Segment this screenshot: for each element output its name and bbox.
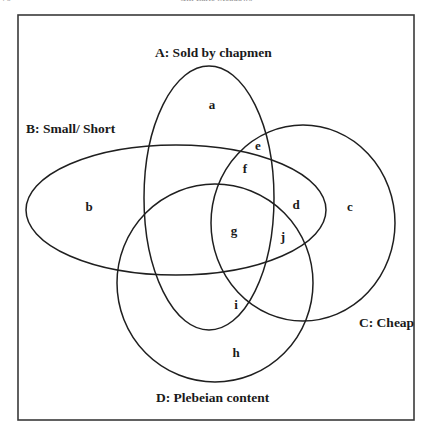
region-j-label: j <box>280 229 285 244</box>
region-c-label: c <box>347 199 353 214</box>
set-a-label: A: Sold by chapmen <box>155 45 272 60</box>
venn-diagram: A: Sold by chapmen B: Small/ Short C: Ch… <box>0 0 432 439</box>
set-b-label: B: Small/ Short <box>26 121 116 136</box>
region-f-label: f <box>243 161 248 176</box>
set-c-ellipse <box>211 125 395 321</box>
region-h-label: h <box>232 345 240 360</box>
region-e-label: e <box>255 138 261 153</box>
region-i-label: i <box>234 297 238 312</box>
set-d-ellipse <box>117 184 313 382</box>
diagram-frame <box>18 15 414 420</box>
set-c-label: C: Cheap <box>359 315 414 330</box>
set-d-label: D: Plebeian content <box>156 390 270 405</box>
region-d-label: d <box>292 197 300 212</box>
region-b-label: b <box>85 199 92 214</box>
region-a-label: a <box>209 97 216 112</box>
region-g-label: g <box>231 223 238 238</box>
